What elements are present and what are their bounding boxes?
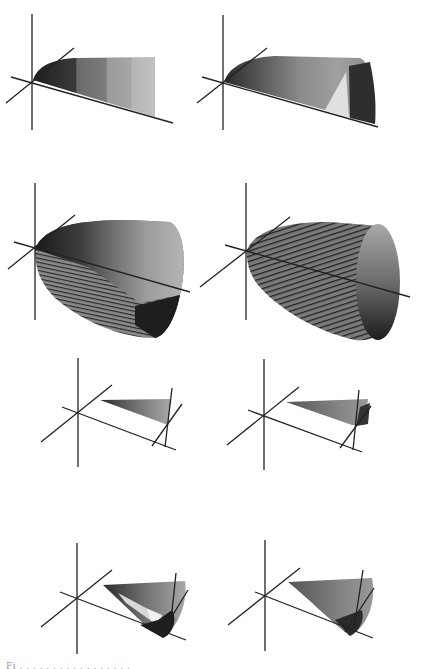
figure-caption: Fi . . . . . . . . . . . . . . . . .	[6, 659, 406, 669]
axis-diagonal-e	[41, 385, 112, 442]
end-cap-d	[356, 224, 400, 340]
wedge-e	[100, 399, 171, 425]
panel-d	[200, 183, 410, 340]
panel-g	[41, 543, 188, 654]
panel-a	[6, 14, 173, 130]
axis-diagonal-h	[228, 568, 300, 625]
panel-c	[8, 183, 190, 338]
panel-b	[197, 15, 378, 130]
dark-end-b	[349, 62, 375, 124]
panel-f	[227, 359, 371, 470]
panel-e	[41, 358, 182, 467]
panel-h	[228, 540, 374, 651]
